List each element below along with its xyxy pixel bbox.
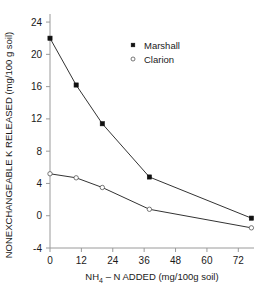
y-tick-label: 4 <box>36 178 42 189</box>
data-point-marshall <box>147 175 151 179</box>
x-tick-label: 60 <box>201 255 213 266</box>
data-point-clarion <box>74 176 78 180</box>
data-point-clarion <box>48 172 52 176</box>
x-tick-label: 24 <box>107 255 119 266</box>
y-tick-label: 8 <box>36 146 42 157</box>
x-tick-label: 72 <box>233 255 245 266</box>
legend-marker-clarion <box>131 57 135 61</box>
y-tick-label: 0 <box>36 210 42 221</box>
x-tick-label: 12 <box>76 255 88 266</box>
data-point-clarion <box>100 185 104 189</box>
chart-canvas: -404812162024 0122436486072 MarshallClar… <box>0 0 261 290</box>
y-axis-title: NONEXCHANGEABLE K RELEASED (mg/100 g soi… <box>3 32 14 259</box>
data-point-marshall <box>74 83 78 87</box>
y-tick-label: -4 <box>33 243 42 254</box>
data-point-clarion <box>249 226 253 230</box>
x-tick-label: 36 <box>139 255 151 266</box>
data-point-marshall <box>249 216 253 220</box>
y-tick-label: 16 <box>31 81 43 92</box>
data-point-clarion <box>147 207 151 211</box>
legend-label-marshall: Marshall <box>144 40 180 51</box>
legend-label-clarion: Clarion <box>144 54 174 65</box>
x-tick-label: 0 <box>47 255 53 266</box>
y-tick-label: 12 <box>31 113 43 124</box>
data-point-marshall <box>48 36 52 40</box>
chart-figure: -404812162024 0122436486072 MarshallClar… <box>0 0 261 290</box>
x-tick-label: 48 <box>170 255 182 266</box>
y-tick-label: 24 <box>31 17 43 28</box>
y-tick-label: 20 <box>31 49 43 60</box>
legend-marker-marshall <box>131 43 135 47</box>
data-point-marshall <box>100 122 104 126</box>
